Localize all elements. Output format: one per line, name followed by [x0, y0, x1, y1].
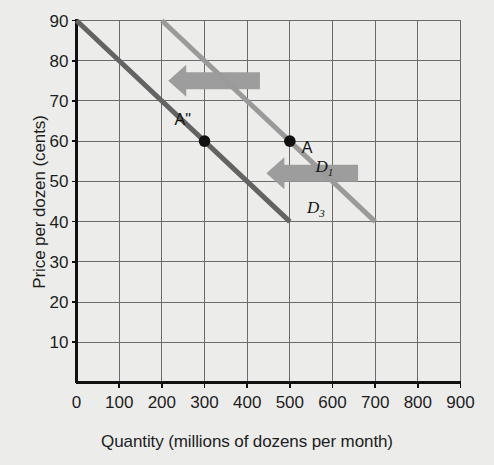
curve-label-subscript: 1 [328, 167, 334, 179]
curve-label-subscript: 3 [319, 207, 325, 219]
curve-label-letter: D [315, 157, 327, 176]
x-tick-label: 900 [439, 393, 483, 413]
x-tick-label: 800 [396, 393, 440, 413]
point-a-double-prime [199, 135, 211, 147]
x-tick-label: 600 [311, 393, 355, 413]
demand-curves [77, 21, 376, 222]
demand-shift-chart: 102030405060708090 010020030040050060070… [0, 0, 494, 465]
x-axis-title: Quantity (millions of dozens per month) [0, 432, 494, 452]
demand-curve-d1 [162, 21, 375, 222]
x-tick-label: 200 [140, 393, 184, 413]
x-tick-label: 400 [225, 393, 269, 413]
y-tick-label: 90 [29, 12, 69, 32]
curve-label-d3: D3 [307, 198, 325, 219]
point-a [284, 135, 296, 147]
point-label-a: A [302, 139, 313, 157]
x-tick-label: 500 [268, 393, 312, 413]
x-tick-label: 300 [183, 393, 227, 413]
curve-label-d1: D1 [315, 157, 333, 178]
x-tick-label: 100 [97, 393, 141, 413]
y-axis-title: Price per dozen (cents) [30, 67, 50, 337]
point-label-a-double-prime: A" [175, 111, 191, 129]
x-tick-label: 0 [55, 393, 99, 413]
curve-label-letter: D [307, 198, 319, 217]
x-tick-label: 700 [353, 393, 397, 413]
